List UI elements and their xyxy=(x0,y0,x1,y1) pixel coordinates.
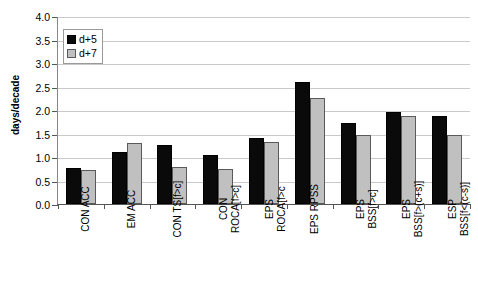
x-axis-label-cell: EM ACC xyxy=(103,205,149,294)
x-axis-label-cell: CON TS[f>c] xyxy=(149,205,195,294)
legend-swatch-icon-d5 xyxy=(67,35,76,44)
x-axis-label: CON ACC xyxy=(80,186,92,232)
plot-area xyxy=(57,17,470,205)
legend-swatch-icon-d7 xyxy=(67,49,76,58)
x-axis-label-cell: EPSROCA[f>c xyxy=(241,205,287,294)
bar-d5-1 xyxy=(112,152,127,204)
bar-group xyxy=(424,17,470,204)
x-axis-label: CONROCA[f>c] xyxy=(218,185,241,233)
bar-groups xyxy=(58,17,470,204)
bar-group xyxy=(195,17,241,204)
y-axis-tick-label: 2.0 xyxy=(6,106,50,116)
x-axis-label: EPSBSS[f>(c+s)] xyxy=(401,181,424,238)
bar-d5-3 xyxy=(203,155,218,204)
x-axis-label-cell: EPSBSS[f>c] xyxy=(332,205,378,294)
x-axis-label: EPS RPSS xyxy=(309,184,321,234)
bar-d5-5 xyxy=(295,82,310,204)
x-axis-label-cell: ESPBSS[f<(c-s)] xyxy=(424,205,470,294)
bar-group xyxy=(333,17,379,204)
y-axis-tick-label: 0.5 xyxy=(6,177,50,187)
x-axis-label-cell: EPS RPSS xyxy=(286,205,332,294)
bar-d5-0 xyxy=(66,168,81,204)
chart-figure: days/decade 0.00.51.01.52.02.53.03.54.0 … xyxy=(0,0,478,294)
bar-d5-4 xyxy=(249,138,264,204)
x-axis-label: EM ACC xyxy=(126,190,138,228)
x-axis-labels: CON ACCEM ACCCON TS[f>c]CONROCA[f>c]EPSR… xyxy=(57,205,470,294)
bar-d5-8 xyxy=(432,116,447,204)
y-axis-tick-label: 2.5 xyxy=(6,83,50,93)
x-axis-label-cell: CONROCA[f>c] xyxy=(195,205,241,294)
x-axis-label: ESPBSS[f<(c-s)] xyxy=(447,182,470,236)
x-axis-label: EPSBSS[f>c] xyxy=(355,189,378,228)
bar-group xyxy=(150,17,196,204)
y-axis-tick-label: 3.0 xyxy=(6,59,50,69)
bar-group xyxy=(104,17,150,204)
legend-label-d7: d+7 xyxy=(79,48,97,59)
y-axis-tick-label: 0.0 xyxy=(6,200,50,210)
legend-item-d7: d+7 xyxy=(67,46,97,60)
x-axis-label-cell: CON ACC xyxy=(57,205,103,294)
legend-label-d5: d+5 xyxy=(79,34,97,45)
x-axis-label: CON TS[f>c] xyxy=(172,181,184,238)
y-axis-tick-label: 4.0 xyxy=(6,12,50,22)
bar-d5-2 xyxy=(157,145,172,204)
x-axis-tick xyxy=(470,204,471,209)
y-axis-tick-label: 3.5 xyxy=(6,36,50,46)
legend-item-d5: d+5 xyxy=(67,32,97,46)
bar-group xyxy=(241,17,287,204)
bar-group xyxy=(378,17,424,204)
bar-d5-6 xyxy=(341,123,356,204)
y-axis-tick-label: 1.5 xyxy=(6,130,50,140)
x-axis-label: EPSROCA[f>c xyxy=(264,186,287,231)
y-axis-tick-label: 1.0 xyxy=(6,153,50,163)
bar-d5-7 xyxy=(386,112,401,204)
bar-group xyxy=(287,17,333,204)
chart-legend: d+5 d+7 xyxy=(63,29,103,64)
x-axis-label-cell: EPSBSS[f>(c+s)] xyxy=(378,205,424,294)
